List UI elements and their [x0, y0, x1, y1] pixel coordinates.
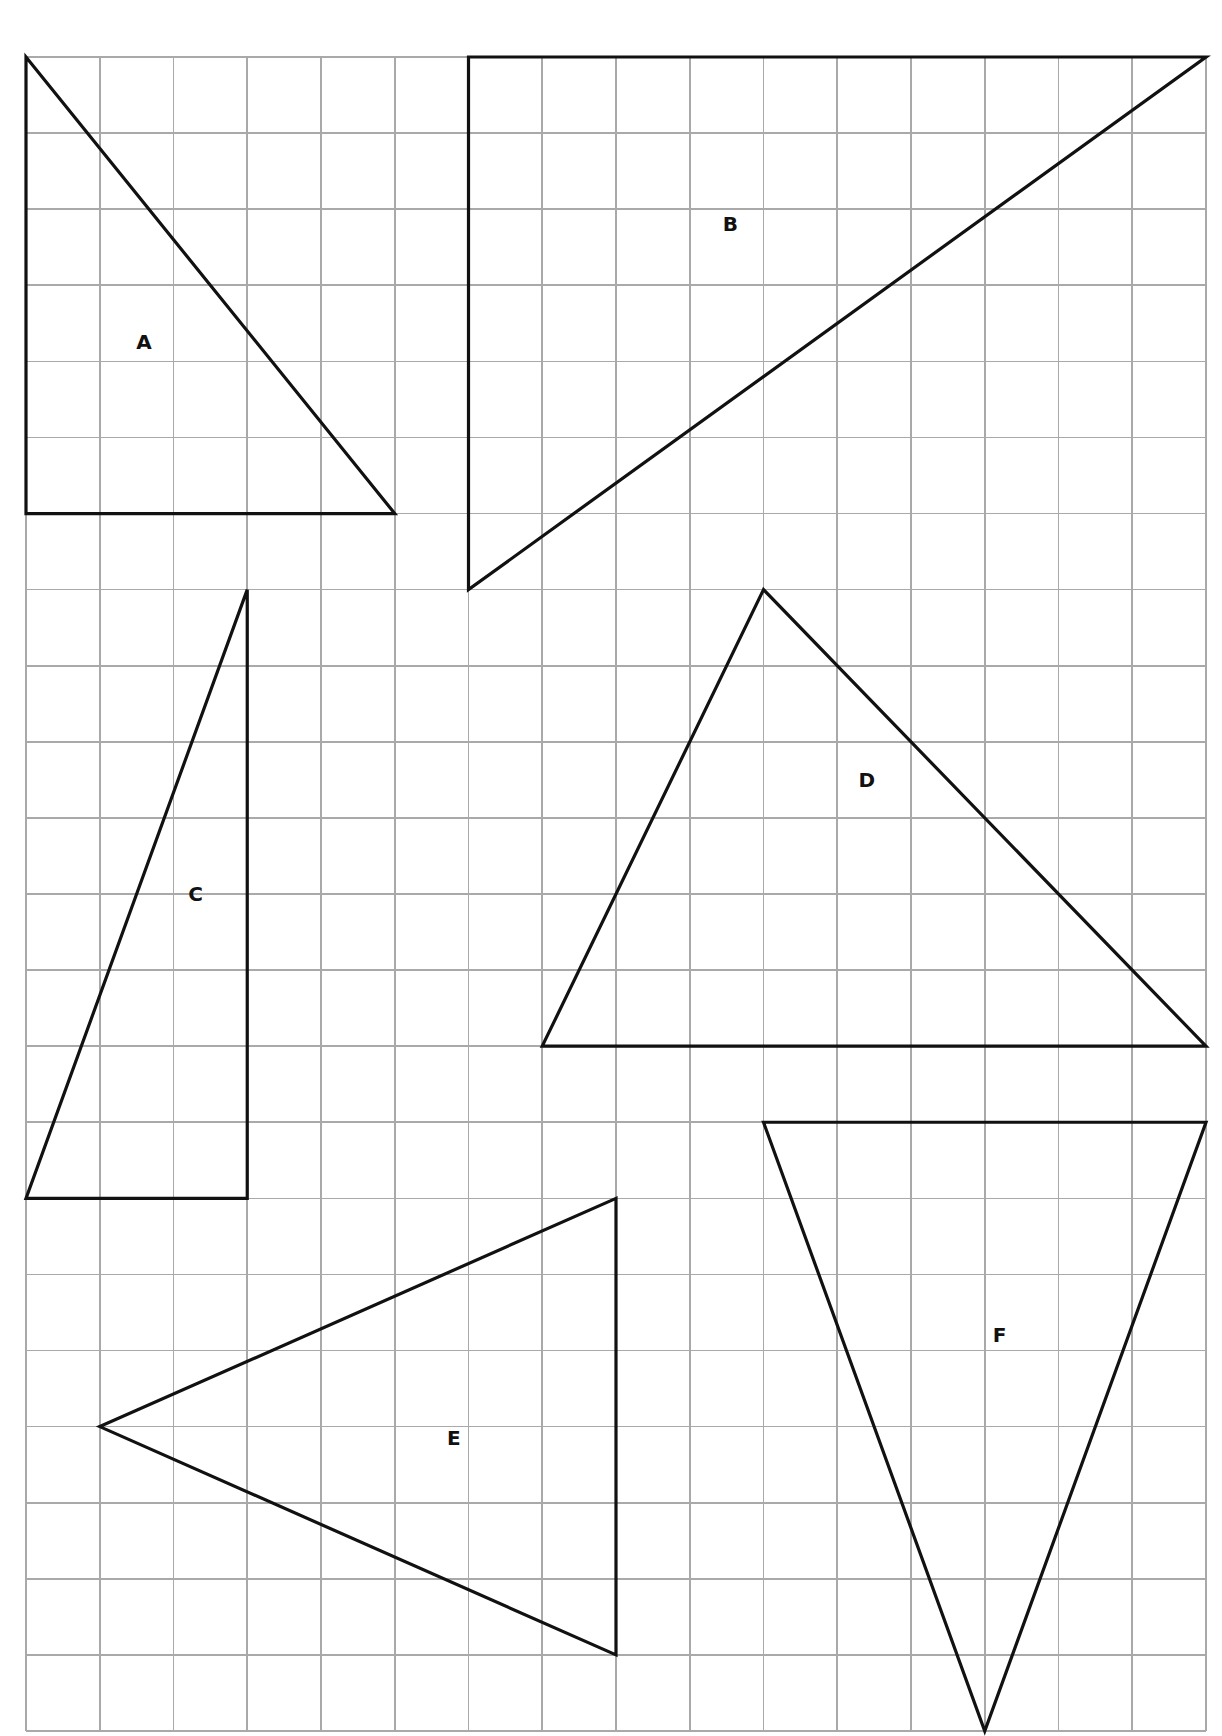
label-c: C [188, 884, 203, 904]
label-e: E [447, 1428, 461, 1448]
grid-diagram [0, 0, 1222, 1736]
label-a: A [136, 332, 151, 352]
label-f: F [993, 1325, 1007, 1345]
label-d: D [858, 770, 875, 790]
label-b: B [723, 214, 738, 234]
